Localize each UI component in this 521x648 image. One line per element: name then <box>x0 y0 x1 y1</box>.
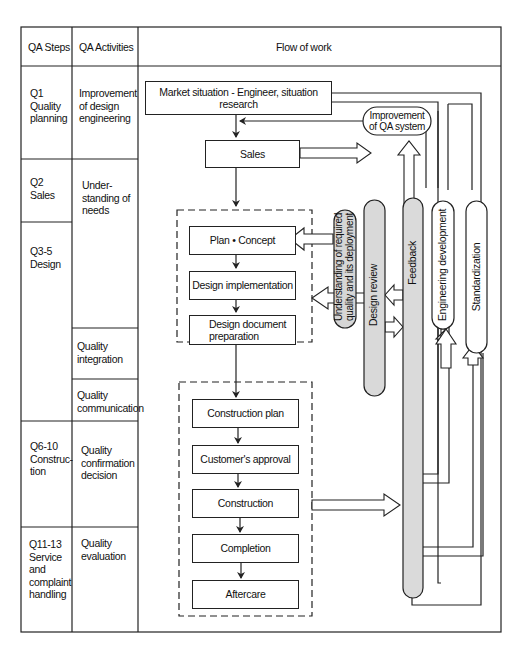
completion-label: Completion <box>220 542 270 555</box>
activity-quality-evaluation: Quality evaluation <box>81 537 126 562</box>
step-q3-5: Q3-5 Design <box>30 245 61 270</box>
activity-quality-confirmation: Quality confirmation decision <box>81 444 135 482</box>
plan-concept-label: Plan • Concept <box>210 234 275 247</box>
standardization-label: Standardization <box>470 232 484 322</box>
construction-box: Construction <box>192 489 299 518</box>
activity-quality-integration: Quality integration <box>77 340 123 365</box>
engineering-development-label: Engineering development <box>436 205 450 325</box>
header-qa-activities: QA Activities <box>79 41 133 53</box>
activity-understanding-needs: Under- standing of needs <box>82 179 130 217</box>
aftercare-box: Aftercare <box>192 580 299 609</box>
activity-quality-communication: Quality communication <box>77 389 144 414</box>
customer-approval-box: Customer's approval <box>192 445 299 474</box>
design-document-box: Design document preparation <box>189 315 296 345</box>
design-review-label: Design review <box>367 255 381 335</box>
step-q6-10: Q6-10 Construc- tion <box>30 440 73 478</box>
construction-plan-label: Construction plan <box>207 407 284 420</box>
activity-improvement-design: Improvement of design engineering <box>79 87 137 125</box>
sales-label: Sales <box>240 148 265 161</box>
step-q11-13: Q11-13 Service and complaint handling <box>29 538 71 601</box>
customer-approval-label: Customer's approval <box>200 453 290 466</box>
construction-label: Construction <box>218 497 273 510</box>
understanding-required-quality-label: Understanding of required quality and it… <box>333 207 357 327</box>
construction-plan-box: Construction plan <box>192 399 299 428</box>
design-implementation-box: Design implementation <box>189 271 296 300</box>
plan-concept-box: Plan • Concept <box>189 226 296 255</box>
header-flow-of-work: Flow of work <box>276 41 331 53</box>
feedback-label: Feedback <box>406 233 420 293</box>
design-document-label: Design document preparation <box>209 318 286 343</box>
market-situation-box: Market situation - Engineer, situation r… <box>145 81 332 115</box>
aftercare-label: Aftercare <box>226 588 266 601</box>
improvement-qa-system-label: Improvement of QA system <box>363 108 431 134</box>
header-qa-steps: QA Steps <box>28 41 70 53</box>
step-q1: Q1 Quality planning <box>30 87 67 125</box>
design-implementation-label: Design implementation <box>192 279 293 292</box>
step-q2: Q2 Sales <box>30 176 55 201</box>
sales-box: Sales <box>205 140 300 168</box>
market-situation-label: Market situation - Engineer, situation r… <box>146 86 331 111</box>
completion-box: Completion <box>192 534 299 563</box>
qa-flow-diagram: QA Steps QA Activities Flow of work Q1 Q… <box>0 0 521 648</box>
